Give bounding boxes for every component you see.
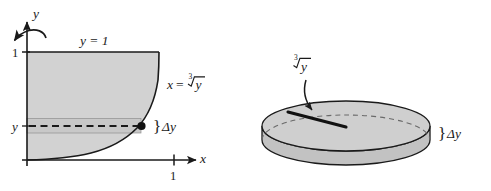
right-thickness-brace: } — [438, 124, 446, 143]
curve-label-index: 3 — [189, 72, 193, 81]
calculus-disk-method-figure: y x 1 y 1 y = 1 x = 3 y } Δy 3 y — [0, 0, 491, 191]
curve-label-equals: = — [176, 77, 184, 92]
right-thickness-annotation: } Δy — [438, 124, 461, 143]
figure-container: y x 1 y 1 y = 1 x = 3 y } Δy 3 y — [0, 0, 491, 191]
label-curve-equation: x = 3 y — [166, 72, 205, 93]
label-y-equals-1: y = 1 — [78, 33, 109, 48]
curve-label-radicand: y — [194, 77, 202, 92]
label-disk-radius: 3 y — [294, 53, 312, 74]
right-panel — [262, 80, 430, 165]
rotation-about-y-axis-arrow — [15, 30, 47, 41]
left-thickness-brace: } — [153, 117, 161, 136]
x-tick-one-label: 1 — [170, 169, 176, 183]
radius-label-radicand: y — [299, 59, 307, 74]
y-tick-y-label: y — [10, 119, 18, 134]
y-axis-label: y — [31, 6, 39, 21]
point-on-curve — [137, 122, 145, 130]
x-axis-label: x — [199, 151, 206, 166]
y-tick-one-label: 1 — [12, 46, 18, 60]
radius-label-index: 3 — [294, 53, 298, 62]
right-thickness-label: Δy — [446, 126, 461, 141]
left-thickness-annotation: } Δy — [153, 117, 176, 136]
left-thickness-label: Δy — [161, 119, 176, 134]
shaded-region-under-curve — [27, 52, 159, 160]
curve-label-x: x — [166, 77, 173, 92]
